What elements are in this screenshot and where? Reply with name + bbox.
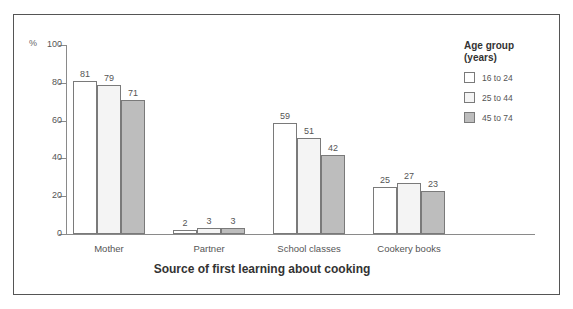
bar-value-label: 25 (380, 175, 390, 186)
y-axis-tick-label: 60 (52, 114, 62, 127)
y-axis-tick-label: 80 (52, 76, 62, 89)
chart-figure: % 020406080100 817971233595142252723 Sou… (0, 0, 573, 309)
bar: 2 (173, 230, 197, 234)
legend-item: 45 to 74 (464, 112, 556, 123)
clipped-caption (14, 300, 414, 309)
legend-item-label: 45 to 74 (482, 113, 513, 123)
legend-title-line-1: Age group (464, 40, 556, 52)
legend-item-label: 25 to 44 (482, 93, 513, 103)
bar: 71 (121, 100, 145, 234)
bar: 3 (197, 228, 221, 234)
plot-area: 817971233595142252723 (66, 45, 458, 234)
y-axis-unit-label: % (29, 38, 37, 48)
x-axis-category-label: Cookery books (361, 243, 457, 254)
bar-value-label: 3 (206, 216, 211, 227)
bar: 51 (297, 138, 321, 234)
bar-value-label: 81 (80, 69, 90, 80)
legend: Age group (years) 16 to 2425 to 4445 to … (464, 40, 556, 132)
y-axis-tick-label: 40 (52, 151, 62, 164)
legend-title-line-2: (years) (464, 52, 556, 64)
legend-item: 25 to 44 (464, 92, 556, 103)
bar-value-label: 2 (182, 218, 187, 229)
bar-value-label: 42 (328, 143, 338, 154)
legend-swatch-icon (464, 72, 475, 83)
legend-item: 16 to 24 (464, 72, 556, 83)
x-axis-line (59, 234, 535, 235)
bar-value-label: 51 (304, 126, 314, 137)
bar: 42 (321, 155, 345, 234)
y-axis-tick-label: 20 (52, 189, 62, 202)
bar: 25 (373, 187, 397, 234)
legend-title: Age group (years) (464, 40, 556, 64)
bar-value-label: 23 (428, 179, 438, 190)
x-axis-category-label: Partner (161, 243, 257, 254)
bar: 23 (421, 191, 445, 234)
bar-value-label: 27 (404, 171, 414, 182)
x-axis-title: Source of first learning about cooking (66, 262, 458, 276)
bar: 81 (73, 81, 97, 234)
bar-value-label: 71 (128, 88, 138, 99)
x-axis-category-label: Mother (61, 243, 157, 254)
x-axis-category-label: School classes (261, 243, 357, 254)
legend-swatch-icon (464, 92, 475, 103)
y-axis-tick-label: 100 (47, 38, 62, 51)
bar-value-label: 3 (230, 216, 235, 227)
bar: 3 (221, 228, 245, 234)
bar: 59 (273, 123, 297, 235)
legend-items: 16 to 2425 to 4445 to 74 (464, 72, 556, 123)
bar-value-label: 79 (104, 73, 114, 84)
legend-swatch-icon (464, 112, 475, 123)
legend-item-label: 16 to 24 (482, 73, 513, 83)
bar: 79 (97, 85, 121, 234)
bar: 27 (397, 183, 421, 234)
y-axis-tick-label: 0 (57, 227, 62, 240)
bar-value-label: 59 (280, 111, 290, 122)
